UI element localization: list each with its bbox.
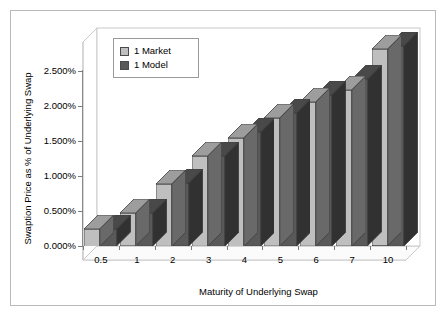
x-tick-label-10: 10	[368, 254, 408, 265]
x-tick-label-0.5: 0.5	[81, 254, 121, 265]
x-tick-mark-0.5	[83, 246, 84, 250]
x-tick-mark-4	[227, 246, 228, 250]
legend-swatch-market-icon	[120, 47, 129, 56]
legend-label-model: 1 Model	[134, 60, 168, 70]
chart-figure: 0.000% 0.500% 1.000% 1.500% 2.000% 2.500…	[0, 0, 446, 316]
chart-legend: 1 Market 1 Model	[113, 38, 199, 78]
x-tick-label-2: 2	[153, 254, 193, 265]
x-axis-ticks: 1076543210.5	[0, 0, 446, 316]
legend-label-market: 1 Market	[134, 46, 171, 56]
x-tick-label-1: 1	[117, 254, 157, 265]
x-tick-label-6: 6	[296, 254, 336, 265]
x-tick-mark-2	[155, 246, 156, 250]
legend-entry-market: 1 Market	[120, 44, 192, 58]
x-tick-label-3: 3	[189, 254, 229, 265]
x-tick-label-7: 7	[332, 254, 372, 265]
x-tick-mark-end	[406, 246, 407, 250]
legend-entry-model: 1 Model	[120, 58, 192, 72]
x-tick-mark-10	[370, 246, 371, 250]
x-tick-mark-5	[262, 246, 263, 250]
plot-area-3d: 0.000% 0.500% 1.000% 1.500% 2.000% 2.500…	[0, 0, 446, 316]
x-tick-label-5: 5	[260, 254, 300, 265]
x-tick-mark-1	[119, 246, 120, 250]
x-tick-mark-7	[334, 246, 335, 250]
legend-swatch-model-icon	[120, 61, 129, 70]
x-tick-mark-3	[191, 246, 192, 250]
x-tick-mark-6	[298, 246, 299, 250]
x-tick-label-4: 4	[225, 254, 265, 265]
x-axis-title: Maturity of Underlying Swap	[97, 286, 420, 297]
